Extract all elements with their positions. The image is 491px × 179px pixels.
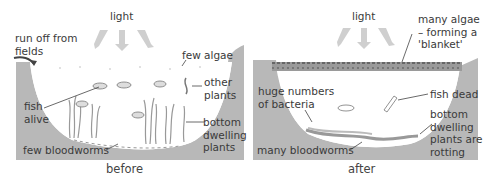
label-bottom-plants-before: bottom dwelling plants — [203, 116, 247, 154]
label-fish-dead: fish dead — [430, 88, 478, 101]
label-runoff: run off from fields — [15, 32, 77, 57]
label-other-plants: other plants — [204, 76, 236, 101]
label-bacteria: huge numbers of bacteria — [258, 85, 334, 110]
label-many-bloodworms: many bloodworms — [257, 144, 354, 157]
label-many-algae: many algae – forming a 'blanket' — [418, 13, 480, 51]
label-light-before: light — [110, 10, 133, 23]
label-light-after: light — [352, 10, 375, 23]
label-fish-alive: fish alive — [24, 100, 49, 125]
caption-after: after — [348, 162, 375, 176]
label-few-bloodworms: few bloodworms — [23, 144, 109, 157]
caption-before: before — [106, 162, 143, 176]
label-few-algae: few algae — [182, 49, 233, 62]
light-arrows-after — [337, 28, 395, 49]
light-arrows-before — [94, 30, 154, 51]
label-bottom-plants-after: bottom dwelling plants are rotting — [430, 108, 483, 158]
